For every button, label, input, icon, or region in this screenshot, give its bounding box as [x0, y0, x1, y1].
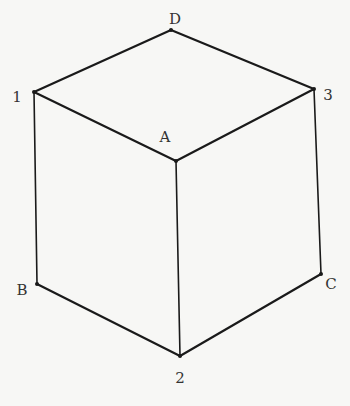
vertex-1 [32, 90, 36, 94]
vertex-A [174, 159, 178, 163]
vertex-C [319, 272, 323, 276]
vertex-2 [178, 354, 182, 358]
edge-1-A [34, 92, 176, 161]
vertex-label-1: 1 [12, 90, 22, 105]
vertex-label-A: A [160, 130, 171, 145]
edge-3-C [314, 89, 321, 274]
edge-1-D [34, 30, 171, 92]
cube-edges [0, 0, 350, 406]
cube-diagram: D13AB2C [0, 0, 350, 406]
vertex-label-2: 2 [175, 371, 185, 386]
edge-1-B [34, 92, 37, 284]
vertex-label-3: 3 [323, 88, 333, 103]
vertex-D [169, 28, 173, 32]
edge-2-C [180, 274, 321, 356]
vertex-3 [312, 87, 316, 91]
vertex-label-B: B [16, 283, 27, 298]
edge-A-2 [176, 161, 180, 356]
edge-A-3 [176, 89, 314, 161]
edge-D-3 [171, 30, 314, 89]
vertex-label-C: C [325, 277, 336, 292]
vertex-label-D: D [169, 12, 181, 27]
edge-B-2 [37, 284, 180, 356]
vertex-B [35, 282, 39, 286]
